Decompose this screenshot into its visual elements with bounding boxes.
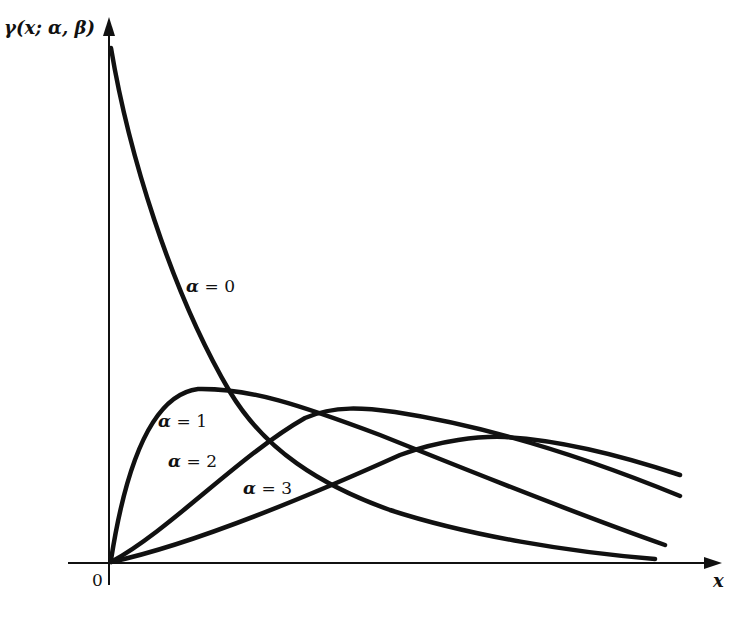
alpha-symbol: α xyxy=(186,276,199,296)
alpha-symbol: α xyxy=(243,478,256,498)
x-axis-label: x xyxy=(713,570,724,591)
origin-label: 0 xyxy=(92,570,103,590)
curve-alpha-0 xyxy=(111,48,655,559)
y-axis-label: γ(x; α, β) xyxy=(4,17,95,38)
alpha-symbol: α xyxy=(158,411,171,431)
x-axis-arrowhead xyxy=(704,557,722,569)
alpha-symbol: α xyxy=(168,451,181,471)
curve-label-alpha-2: α = 2 xyxy=(168,451,217,471)
gamma-distribution-chart xyxy=(0,0,749,621)
curve-label-alpha-3: α = 3 xyxy=(243,478,292,498)
y-axis-arrowhead xyxy=(103,17,115,36)
curve-label-alpha-0: α = 0 xyxy=(186,276,235,296)
curve-label-alpha-1: α = 1 xyxy=(158,411,207,431)
